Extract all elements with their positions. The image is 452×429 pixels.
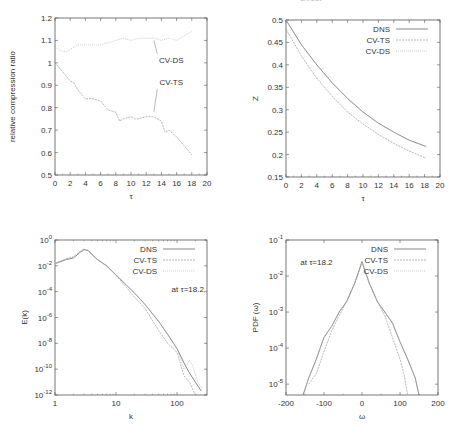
y-tick-label: 1.1 [41,36,53,45]
figure-panels: 024681012141618200.50.60.70.80.911.11.2τ… [0,0,452,429]
x-tick-label: 100 [170,399,184,408]
legend-label: DNS [140,245,157,254]
y-tick-label: 10-12 [34,389,52,400]
y-tick-label: 10-1 [269,234,284,245]
x-tick-label: 14 [389,181,398,190]
x-tick-label: 2 [68,179,73,188]
y-tick-label: 10-2 [269,270,284,281]
x-tick-label: 8 [345,181,350,190]
legend-label: CV-TS [133,256,157,265]
y-tick-label: 10-4 [38,286,53,297]
legend-label: DNS [373,25,390,34]
x-tick-label: 10 [127,179,136,188]
x-tick-label: 4 [315,181,320,190]
x-tick-label: 100 [393,399,407,408]
annotation-arrow [154,40,157,53]
series-cv-ts [55,63,192,155]
x-tick-label: 0 [360,399,365,408]
y-tick-label: 0.35 [267,83,283,92]
x-tick-label: 18 [420,181,429,190]
z-chart: 024681012141618200.150.20.250.30.350.40.… [251,16,445,203]
series-cv-ts [309,262,408,395]
x-axis-label: k [129,412,134,421]
series-cv-ts [55,249,195,395]
annotation: CV-TS [159,78,183,87]
y-tick-label: 10-3 [269,306,284,317]
x-tick-label: 200 [431,399,445,408]
y-tick-label: 0.25 [267,128,283,137]
x-tick-label: 8 [114,179,119,188]
plot-frame [55,240,207,395]
energy-spectrum-chart: 11010010-1210-1010-810-610-410-2100kE(k)… [20,234,207,421]
series-cv-ds [303,262,419,395]
x-tick-label: 16 [405,181,414,190]
series-cv-ds [286,20,426,147]
series-cv-ds [55,32,192,52]
annotation: at τ=18.2 [172,285,205,294]
y-axis-label: PDF (ω) [251,302,260,332]
legend-label: CV-DS [364,267,388,276]
series-dns [303,262,419,395]
y-tick-label: 0.3 [272,106,284,115]
y-tick-label: 10-10 [34,363,52,374]
series-dns [286,20,426,147]
x-tick-label: 12 [374,181,383,190]
y-tick-label: 0.45 [267,38,283,47]
y-tick-label: 0.2 [272,151,284,160]
y-tick-label: 1 [48,59,53,68]
x-tick-label: 10 [359,181,368,190]
y-tick-label: 0.5 [41,171,53,180]
legend-label: CV-DS [133,267,157,276]
y-tick-label: 10-6 [38,312,53,323]
x-tick-label: 20 [203,179,212,188]
plot-frame [286,20,440,177]
x-axis-label: ω [359,412,365,421]
x-tick-label: 20 [436,181,445,190]
x-tick-label: 14 [157,179,166,188]
x-axis-label: τ [361,194,365,203]
x-tick-label: -100 [316,399,333,408]
annotation-arrow [154,89,157,112]
y-axis-label: Z [251,96,260,101]
x-tick-label: -200 [278,399,295,408]
x-tick-label: 1 [53,399,58,408]
y-tick-label: 0.15 [267,173,283,182]
series-cv-ts [286,29,426,158]
x-tick-label: 0 [53,179,58,188]
y-axis-label: relative compression ratio [8,50,17,142]
y-tick-label: 10-8 [38,337,53,348]
x-tick-label: 0 [284,181,289,190]
x-tick-label: 2 [299,181,304,190]
y-tick-label: 0.4 [272,61,284,70]
legend-label: CV-DS [366,47,390,56]
vorticity-pdf-chart: -200-100010020010-510-410-310-210-1ωPDF … [251,234,445,421]
x-tick-label: 4 [83,179,88,188]
y-tick-label: 100 [40,234,53,245]
annotation: CV-DS [159,56,183,65]
x-axis-label: τ [129,192,133,201]
series-cv-ds [55,250,202,389]
legend-label: DNS [371,245,388,254]
x-tick-label: 16 [172,179,181,188]
y-axis-label: E(k) [20,310,29,325]
x-tick-label: 10 [112,399,121,408]
y-tick-label: 10-5 [269,378,284,389]
y-tick-label: 0.8 [41,104,53,113]
x-tick-label: 18 [187,179,196,188]
y-tick-label: 0.9 [41,81,53,90]
compression-ratio-chart: 024681012141618200.50.60.70.80.911.11.2τ… [8,14,212,201]
y-tick-label: 0.5 [272,16,284,25]
x-tick-label: 12 [142,179,151,188]
legend-label: CV-TS [366,36,390,45]
y-tick-label: 10-2 [38,260,53,271]
annotation: at τ=18.2 [300,258,333,267]
y-tick-label: 1.2 [41,14,53,23]
y-tick-label: 0.7 [41,126,53,135]
plot-frame [55,18,207,175]
legend-label: CV-TS [364,256,388,265]
x-tick-label: 6 [330,181,335,190]
x-tick-label: 6 [98,179,103,188]
y-tick-label: 0.6 [41,149,53,158]
y-tick-label: 10-4 [269,342,284,353]
